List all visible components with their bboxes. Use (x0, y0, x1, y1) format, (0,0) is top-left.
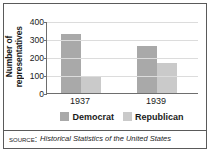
gridline (47, 76, 198, 77)
y-tick-label: 100 (30, 72, 44, 80)
y-tick-mark (44, 40, 47, 41)
y-tick-label: 400 (30, 18, 44, 26)
y-axis-label-text: Number of representatives (5, 26, 24, 87)
bar (137, 46, 157, 93)
source-note: Source: Historical Statistics of the Uni… (4, 131, 206, 146)
gridline (47, 22, 198, 23)
y-tick-mark (44, 58, 47, 59)
source-title: Historical Statistics of the United Stat… (40, 134, 171, 143)
chart-legend: DemocratRepublican (46, 110, 198, 123)
y-tick-mark (44, 22, 47, 23)
legend-swatch (123, 112, 132, 121)
y-tick-mark (44, 94, 47, 95)
y-tick-mark (44, 76, 47, 77)
legend-swatch (60, 112, 69, 121)
y-tick-label: 200 (30, 54, 44, 62)
y-tick-label: 300 (30, 36, 44, 44)
bar (61, 34, 81, 93)
gridline (47, 58, 198, 59)
figure-frame: Number of representatives 0100200300400 … (3, 3, 207, 149)
legend-label: Democrat (72, 112, 114, 122)
bar (157, 63, 177, 93)
legend-label: Republican (135, 112, 184, 122)
chart-figure: Number of representatives 0100200300400 … (0, 0, 210, 152)
gridline (47, 40, 198, 41)
y-axis-label: Number of representatives (6, 16, 22, 98)
source-label: Source: (9, 134, 37, 144)
legend-item: Republican (123, 112, 184, 122)
legend-item: Democrat (60, 112, 114, 122)
y-axis-tick-labels: 0100200300400 (22, 18, 44, 94)
x-tick-label: 1937 (64, 96, 96, 106)
bar (81, 77, 101, 93)
plot-area: Number of representatives 0100200300400 … (4, 4, 206, 128)
x-tick-label: 1939 (140, 96, 172, 106)
axes (46, 22, 198, 94)
